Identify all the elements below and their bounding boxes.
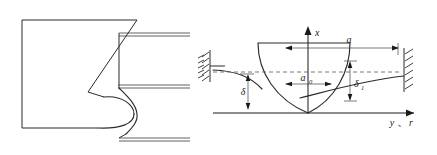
block-diagonal-face — [88, 20, 137, 92]
dimension-delta1-label-base: δ — [354, 78, 359, 89]
y-axis-label: y — [389, 117, 395, 128]
right-wall-hatch-5 — [405, 77, 413, 82]
left-panel-group — [22, 20, 204, 141]
x-axis-label: x — [314, 27, 320, 38]
left-wall-hatch-1 — [202, 52, 209, 57]
dimension-delta1-label-sub: 1 — [361, 84, 364, 91]
right-wall-hatch-4 — [405, 70, 413, 75]
notch-step-upper — [88, 92, 104, 97]
fixed-support-left — [202, 50, 225, 82]
figure-svg: a a 0 δ — [0, 0, 437, 155]
right-wall-hatch-6 — [405, 84, 413, 89]
left-marker-hatch-5 — [198, 75, 204, 78]
dimension-a0-label-sub: 0 — [309, 78, 313, 85]
fixed-support-right — [404, 48, 413, 92]
dimension-delta-label: δ — [241, 86, 246, 97]
left-marker-hatch-4 — [198, 70, 204, 73]
right-wall-hatch-1 — [405, 49, 413, 54]
dimension-a0-arrow-right — [325, 82, 332, 87]
right-wall-hatch-2 — [405, 56, 413, 61]
technical-figure: a a 0 δ — [0, 0, 437, 155]
right-panel-group: a a 0 δ — [202, 26, 414, 128]
dimension-a0-arrow-left — [285, 82, 292, 87]
deformed-profile-lower-curve — [98, 114, 134, 128]
profile-tail-to-lower-plate — [119, 134, 126, 138]
horizontal-axis-arrowhead — [406, 110, 414, 117]
dimension-a0-label-base: a — [301, 72, 306, 83]
left-wall-hatch-3 — [202, 64, 209, 69]
axis-label-separator: 、 — [398, 119, 406, 128]
dimension-delta-arrow-bottom — [246, 103, 251, 110]
dimension-a: a — [285, 34, 399, 55]
dimension-a-arrow-left — [285, 46, 292, 51]
r-axis-label: r — [409, 117, 413, 128]
vertical-axis-arrowhead — [305, 26, 312, 35]
deformed-profile-inner-hook — [119, 88, 137, 134]
right-wall-hatch-3 — [405, 63, 413, 68]
dimension-delta1-arrow-bottom — [348, 94, 353, 101]
indenter-right-profile — [308, 43, 350, 113]
left-wall-hatch-5 — [202, 76, 209, 81]
dimension-a-label: a — [347, 34, 352, 45]
left-marker-hatch-3 — [198, 65, 204, 68]
dimension-delta: δ — [240, 74, 254, 110]
deflection-curve-left — [213, 70, 262, 89]
